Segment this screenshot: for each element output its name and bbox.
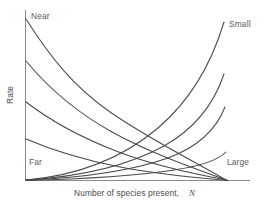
immigration-curve-near — [26, 19, 226, 180]
label-near: Near — [31, 11, 50, 21]
extinction-curve-2 — [26, 74, 224, 180]
plot-svg: Near Far Small Large Number of species p… — [0, 0, 267, 201]
island-biogeography-figure: Near Far Small Large Number of species p… — [0, 0, 267, 201]
y-axis-title: Rate — [5, 86, 15, 104]
label-small: Small — [229, 19, 251, 29]
label-far: Far — [29, 157, 42, 167]
label-large: Large — [227, 157, 249, 167]
x-axis-title-symbol: N — [188, 188, 196, 198]
x-axis-title: Number of species present, — [74, 188, 179, 198]
extinction-curve-small — [26, 22, 224, 180]
